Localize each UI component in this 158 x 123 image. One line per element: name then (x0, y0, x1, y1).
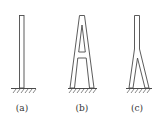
figure-a-single-column: (a) (11, 16, 36, 114)
figure-c-label: (c) (131, 103, 143, 113)
figure-c-inverted-y-tower: (c) (126, 16, 152, 114)
figure-b-label: (b) (76, 103, 89, 113)
ground-support-icon (126, 89, 152, 94)
figure-b-a-shaped-tower: (b) (68, 16, 97, 114)
ground-support-icon (11, 89, 36, 94)
ground-support-icon (68, 89, 97, 94)
figure-a-label: (a) (16, 103, 28, 113)
y-tower-outline (129, 16, 149, 89)
tower-forms-diagram: (a) (b) (c) (0, 0, 158, 123)
column-shaft (20, 16, 25, 89)
